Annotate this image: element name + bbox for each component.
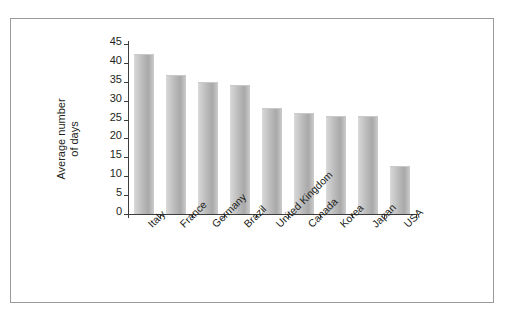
y-axis-title-text: Average number of days	[55, 98, 81, 179]
plot-area: 051015202530354045	[128, 44, 416, 214]
y-tick-mark	[124, 101, 128, 102]
y-tick-label: 40	[110, 55, 122, 66]
y-tick-label: 20	[110, 130, 122, 141]
y-tick-mark	[124, 138, 128, 139]
bar	[134, 54, 153, 214]
bar	[166, 75, 185, 214]
y-tick-mark	[124, 120, 128, 121]
y-tick-mark	[124, 82, 128, 83]
x-axis-line	[128, 214, 417, 215]
x-tick-mark	[128, 214, 129, 218]
y-tick-label: 35	[110, 74, 122, 85]
y-tick-label: 0	[116, 206, 122, 217]
y-tick-mark	[124, 195, 128, 196]
y-tick-mark	[124, 176, 128, 177]
y-tick-label: 5	[116, 187, 122, 198]
y-axis-title: Average number of days	[55, 79, 81, 199]
chart-frame: Average number of days 05101520253035404…	[10, 18, 494, 303]
bar	[198, 82, 217, 214]
bar	[262, 108, 281, 214]
y-tick-label: 45	[110, 36, 122, 47]
y-tick-mark	[124, 157, 128, 158]
y-tick-label: 15	[110, 149, 122, 160]
y-tick-label: 25	[110, 112, 122, 123]
y-axis-line	[128, 41, 129, 217]
y-tick-mark	[124, 44, 128, 45]
y-tick-mark	[124, 63, 128, 64]
y-tick-label: 10	[110, 168, 122, 179]
y-axis-title-line-2: of days	[68, 121, 80, 156]
y-axis-title-line-1: Average number	[55, 98, 67, 179]
y-tick-label: 30	[110, 93, 122, 104]
bar	[358, 116, 377, 214]
